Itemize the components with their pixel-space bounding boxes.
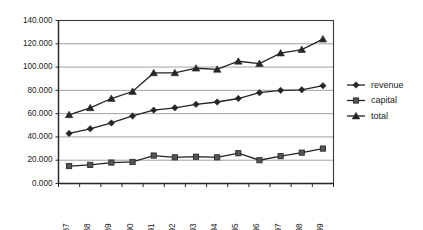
x-tick-label: 1991: [147, 223, 156, 230]
data-point-marker: [151, 153, 156, 158]
legend-item-total[interactable]: total: [347, 111, 388, 121]
data-point-marker: [88, 162, 93, 167]
x-tick-label: 1993: [189, 223, 198, 230]
data-point-marker: [66, 163, 71, 168]
x-tick-label: 1989: [104, 223, 113, 230]
data-point-marker: [320, 83, 326, 89]
series-line-revenue: [69, 86, 323, 134]
data-point-marker: [257, 158, 262, 163]
data-point-marker: [193, 101, 199, 107]
data-point-marker: [109, 160, 114, 165]
legend-label: total: [371, 111, 388, 121]
y-tick-label: 100.000: [23, 62, 53, 71]
data-point-marker: [298, 46, 306, 52]
x-tick-label: 1997: [274, 223, 283, 230]
data-point-marker: [353, 98, 358, 103]
x-axis-tick-labels: 1987198819891990199119921993199419951996…: [62, 223, 325, 230]
y-tick-label: 120.000: [23, 39, 53, 48]
data-point-marker: [87, 126, 93, 132]
chart-container: 0.00020.00040.00060.00080.000100.000120.…: [0, 0, 423, 230]
legend-label: capital: [371, 95, 397, 105]
data-point-marker: [66, 130, 72, 136]
data-point-marker: [299, 150, 304, 155]
data-point-marker: [236, 151, 241, 156]
x-tick-label: 1987: [62, 223, 71, 230]
line-chart: 0.00020.00040.00060.00080.000100.000120.…: [0, 0, 423, 230]
x-tick-label: 1994: [210, 223, 219, 230]
y-tick-label: 20.000: [27, 155, 52, 164]
y-tick-label: 0.000: [32, 179, 53, 188]
y-axis-tick-labels: 0.00020.00040.00060.00080.000100.000120.…: [23, 16, 59, 188]
x-tick-label: 1990: [126, 223, 135, 230]
data-point-marker: [278, 154, 283, 159]
data-point-marker: [214, 99, 220, 105]
data-point-marker: [150, 107, 156, 113]
series-group: [65, 36, 326, 169]
y-tick-label: 40.000: [27, 132, 52, 141]
data-point-marker: [193, 154, 198, 159]
data-point-marker: [172, 155, 177, 160]
legend-label: revenue: [371, 80, 404, 90]
chart-legend: revenuecapitaltotal: [347, 80, 404, 121]
y-tick-label: 80.000: [27, 86, 52, 95]
data-point-marker: [130, 159, 135, 164]
x-tick-label: 1999: [316, 223, 325, 230]
data-point-marker: [215, 155, 220, 160]
data-point-marker: [320, 146, 325, 151]
data-point-marker: [319, 36, 327, 42]
data-point-marker: [299, 87, 305, 93]
series-capital: [66, 146, 325, 169]
data-point-marker: [235, 95, 241, 101]
x-tick-label: 1995: [231, 223, 240, 230]
x-tick-label: 1988: [83, 223, 92, 230]
data-point-marker: [108, 120, 114, 126]
legend-item-capital[interactable]: capital: [347, 95, 397, 105]
data-point-marker: [172, 105, 178, 111]
y-tick-label: 60.000: [27, 109, 52, 118]
x-tick-label: 1992: [168, 223, 177, 230]
data-point-marker: [353, 82, 359, 88]
legend-item-revenue[interactable]: revenue: [347, 80, 404, 90]
y-tick-label: 140.000: [23, 16, 53, 25]
x-tick-label: 1996: [252, 223, 261, 230]
data-point-marker: [277, 87, 283, 93]
data-point-marker: [86, 104, 94, 110]
x-tick-label: 1998: [295, 223, 304, 230]
